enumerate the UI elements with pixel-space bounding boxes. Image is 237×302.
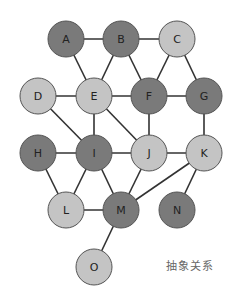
node-H: H bbox=[20, 135, 56, 171]
node-I: I bbox=[76, 135, 112, 171]
node-label: O bbox=[90, 261, 99, 274]
node-A: A bbox=[48, 21, 84, 57]
node-label: K bbox=[200, 147, 208, 160]
node-label: L bbox=[63, 204, 70, 217]
node-O: O bbox=[76, 249, 112, 285]
node-label: M bbox=[116, 204, 126, 217]
node-label: J bbox=[146, 147, 150, 160]
node-L: L bbox=[48, 192, 84, 228]
node-label: C bbox=[173, 33, 181, 46]
node-B: B bbox=[103, 21, 139, 57]
node-label: I bbox=[92, 147, 95, 160]
node-K: K bbox=[186, 135, 222, 171]
node-G: G bbox=[186, 78, 222, 114]
node-label: N bbox=[173, 204, 181, 217]
node-M: M bbox=[103, 192, 139, 228]
node-F: F bbox=[131, 78, 167, 114]
node-C: C bbox=[159, 21, 195, 57]
node-D: D bbox=[20, 78, 56, 114]
node-N: N bbox=[159, 192, 195, 228]
node-label: D bbox=[34, 90, 42, 103]
node-label: E bbox=[91, 90, 98, 103]
edges-layer bbox=[38, 39, 204, 267]
node-label: G bbox=[200, 90, 209, 103]
node-J: J bbox=[131, 135, 167, 171]
diagram-caption: 抽象关系 bbox=[166, 257, 214, 273]
node-label: B bbox=[117, 33, 125, 46]
node-E: E bbox=[76, 78, 112, 114]
node-label: F bbox=[146, 90, 152, 103]
node-label: A bbox=[62, 33, 70, 46]
node-label: H bbox=[34, 147, 42, 160]
